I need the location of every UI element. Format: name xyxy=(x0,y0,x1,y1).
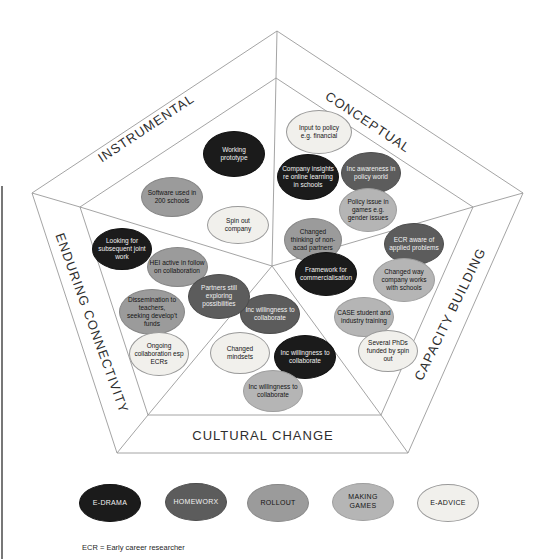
legend-item-e-advice: E-ADVICE xyxy=(417,484,479,522)
node-software-used-200-schools: Software used in 200 schools xyxy=(141,177,203,217)
pentagon-impact-diagram: INSTRUMENTAL CONCEPTUAL CAPACITY BUILDIN… xyxy=(0,0,553,559)
node-working-prototype: Working prototype xyxy=(203,131,265,177)
node-company-insights-online-learning: Company insights re online learning in s… xyxy=(277,154,339,200)
node-inc-willingness-collaborate-3: Inc willingness to collaborate xyxy=(243,370,303,412)
node-partners-exploring-possibilities: Partners still exploring possibilities xyxy=(188,274,250,319)
legend-item-rollout: ROLLOUT xyxy=(247,484,309,522)
node-framework-commercialisation: Framework for commercialisation xyxy=(295,252,357,296)
node-changed-way-company-schools: Changed way company works with schools xyxy=(373,258,435,302)
node-looking-subsequent-joint-work: Looking for subsequent joint work xyxy=(92,228,152,270)
node-input-to-policy: Input to policy e.g. financial xyxy=(286,110,352,154)
node-policy-issue-games-gender: Policy issue in games e.g. gender issues xyxy=(339,188,397,232)
node-several-phds-spin-out: Several PhDs funded by spin out xyxy=(358,330,418,372)
node-dissemination-teachers-funds: Dissemination to teachers, seeking devel… xyxy=(119,289,185,335)
legend-item-making-games: MAKING GAMES xyxy=(332,483,394,521)
legend-item-homeworx: HOMEWORX xyxy=(165,483,227,521)
node-changed-mindsets: Changed mindsets xyxy=(210,332,270,374)
legend-item-e-drama: E-DRAMA xyxy=(79,484,141,522)
ecr-footnote: ECR = Early career researcher xyxy=(82,543,185,552)
node-ongoing-collaboration-ecrs: Ongoing collaboration esp ECRs xyxy=(129,332,189,376)
sector-label-cultural-change: CULTURAL CHANGE xyxy=(192,428,333,443)
node-spin-out-company: Spin out company xyxy=(207,206,269,244)
